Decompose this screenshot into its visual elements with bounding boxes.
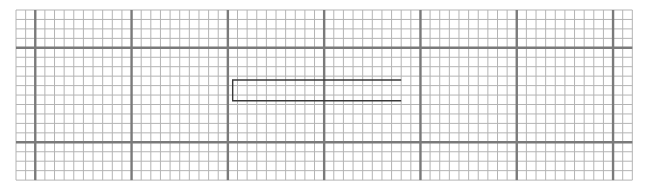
graph-paper (0, 0, 650, 191)
open-rectangle-shape (233, 80, 402, 101)
